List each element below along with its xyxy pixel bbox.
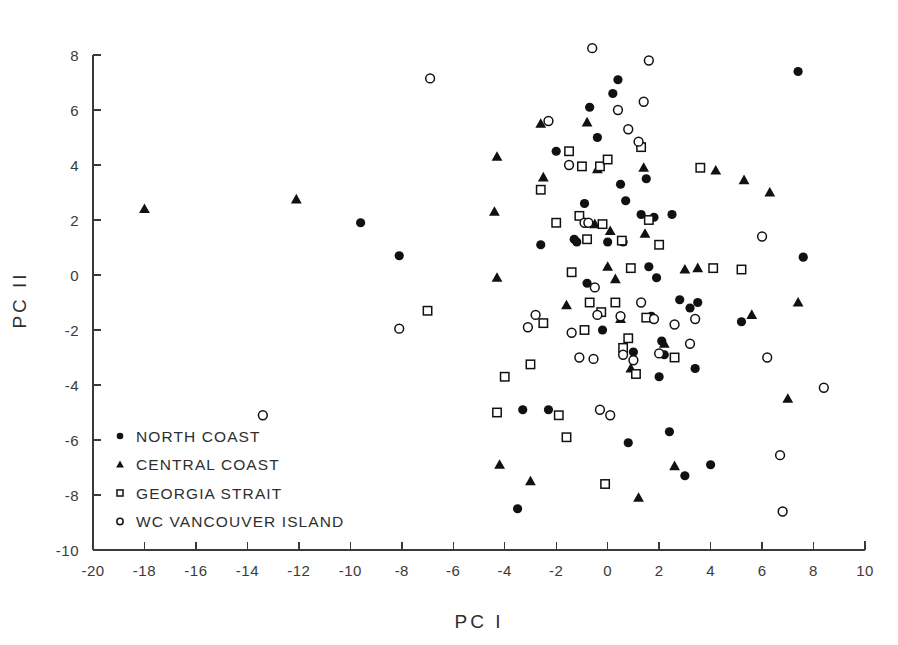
data-point xyxy=(601,480,609,488)
data-point xyxy=(567,328,576,337)
x-tick-label: -16 xyxy=(184,562,207,579)
data-point xyxy=(593,133,602,142)
axes-group xyxy=(93,55,865,550)
x-tick-label: 2 xyxy=(655,562,664,579)
data-point xyxy=(552,219,560,227)
data-point xyxy=(680,471,689,480)
y-tick-label: -4 xyxy=(65,377,79,394)
data-point xyxy=(139,203,150,213)
data-point xyxy=(655,372,664,381)
data-point xyxy=(489,206,500,216)
scatter-plot-figure: -20-18-16-14-12-10-8-6-4-20246810-10-8-6… xyxy=(0,0,898,645)
data-point xyxy=(584,218,593,227)
data-point xyxy=(613,75,622,84)
data-point xyxy=(356,218,365,227)
data-point xyxy=(544,117,553,126)
data-point xyxy=(616,312,625,321)
data-point xyxy=(598,325,607,334)
data-point xyxy=(603,155,611,163)
data-point xyxy=(624,334,632,342)
legend-marker-open-square xyxy=(117,490,123,496)
data-point xyxy=(598,220,606,228)
data-point xyxy=(634,137,643,146)
data-point xyxy=(539,319,547,327)
y-tick-label: 8 xyxy=(70,47,79,64)
legend-marker-filled-circle xyxy=(117,433,124,440)
data-point xyxy=(644,56,653,65)
data-point xyxy=(572,237,581,246)
y-tick-label: -10 xyxy=(56,542,79,559)
data-point xyxy=(602,261,613,271)
x-tick-label: -20 xyxy=(81,562,104,579)
data-point xyxy=(561,300,572,310)
data-point xyxy=(633,492,644,502)
data-point xyxy=(611,298,619,306)
data-point xyxy=(763,353,772,362)
data-point xyxy=(675,295,684,304)
data-point xyxy=(686,339,695,348)
y-tick-label: 4 xyxy=(70,157,79,174)
data-point xyxy=(518,405,527,414)
data-point xyxy=(423,307,431,315)
data-point xyxy=(593,310,602,319)
x-tick-label: 6 xyxy=(758,562,767,579)
data-point xyxy=(746,309,757,319)
data-point xyxy=(652,273,661,282)
data-point xyxy=(710,165,721,175)
data-point xyxy=(590,283,599,292)
data-point xyxy=(655,349,664,358)
y-tick-label: 6 xyxy=(70,102,79,119)
data-point xyxy=(616,180,625,189)
data-point xyxy=(650,315,659,324)
data-point xyxy=(655,241,663,249)
data-point xyxy=(575,353,584,362)
data-point xyxy=(565,161,574,170)
y-tick-label: -8 xyxy=(65,487,79,504)
x-tick-label: -8 xyxy=(395,562,409,579)
x-tick-label: -6 xyxy=(446,562,460,579)
data-point xyxy=(531,310,540,319)
plot-canvas: -20-18-16-14-12-10-8-6-4-20246810-10-8-6… xyxy=(0,0,898,645)
data-point xyxy=(395,324,404,333)
data-point xyxy=(525,476,536,486)
y-tick-label: 0 xyxy=(70,267,79,284)
data-point xyxy=(691,315,700,324)
series-north-coast xyxy=(356,67,808,513)
data-point xyxy=(588,44,597,53)
data-point xyxy=(638,162,649,172)
data-point xyxy=(776,451,785,460)
data-point xyxy=(632,370,640,378)
data-point xyxy=(642,174,651,183)
data-point xyxy=(764,187,775,197)
data-point xyxy=(667,210,676,219)
data-point xyxy=(580,199,589,208)
data-point xyxy=(669,461,680,471)
x-tick-label: 8 xyxy=(809,562,818,579)
y-tick-label: -6 xyxy=(65,432,79,449)
data-point xyxy=(758,232,767,241)
data-point xyxy=(665,427,674,436)
data-point xyxy=(585,103,594,112)
data-point xyxy=(799,253,808,262)
y-tick-label: 2 xyxy=(70,212,79,229)
x-tick-label: 10 xyxy=(856,562,874,579)
data-point xyxy=(513,504,522,513)
data-point xyxy=(737,265,745,273)
data-point xyxy=(291,194,302,204)
data-point xyxy=(619,350,628,359)
data-point xyxy=(526,360,534,368)
data-point xyxy=(395,251,404,260)
x-tick-label: 0 xyxy=(603,562,612,579)
data-point xyxy=(778,507,787,516)
data-point xyxy=(739,175,750,185)
data-point xyxy=(589,354,598,363)
data-point xyxy=(608,89,617,98)
data-point xyxy=(493,408,501,416)
data-point xyxy=(552,147,561,156)
x-axis-title: PC I xyxy=(455,611,504,632)
data-point xyxy=(562,433,570,441)
data-point xyxy=(670,320,679,329)
data-point xyxy=(782,393,793,403)
data-point xyxy=(567,268,575,276)
legend-group: NORTH COASTCENTRAL COASTGEORGIA STRAITWC… xyxy=(116,428,344,531)
